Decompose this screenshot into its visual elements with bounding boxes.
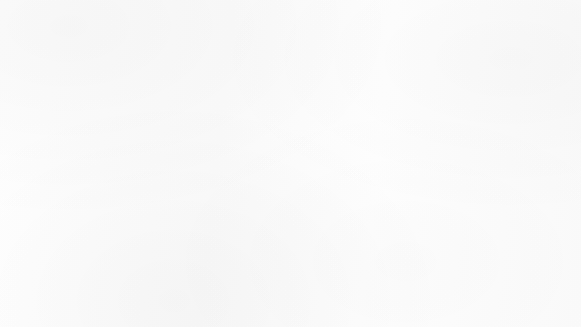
label-line-1: Partly <box>150 96 258 114</box>
label-line-2: countries <box>430 233 534 251</box>
label-line-3: countries <box>150 132 258 150</box>
label-line-2: countries <box>298 166 410 184</box>
label-value: 63 <box>62 245 184 263</box>
pie-2009-label-not-free: Not free countries 42 <box>430 215 534 269</box>
label-line-1: Not free <box>62 209 184 227</box>
chart-1974: 1974 Free countries 41 Partly free count… <box>0 0 290 327</box>
label-value: 48 <box>150 150 258 168</box>
label-value: 42 <box>430 251 534 269</box>
pie-1974-label-not-free: Not free countries 63 <box>62 209 184 263</box>
label-line-2: countries <box>32 122 136 140</box>
label-line-1: Partly <box>418 88 532 106</box>
pie-1974-label-partly-free: Partly free countries 48 <box>150 96 258 168</box>
label-line-1: Free <box>32 104 136 122</box>
label-value: 62 <box>418 142 532 160</box>
chart-2009: 2009 Free countries 89 Partly free count… <box>290 0 581 327</box>
pie-chart-figure: 1974 Free countries 41 Partly free count… <box>0 0 581 327</box>
label-line-3: countries <box>418 124 532 142</box>
pie-1974-label-free: Free countries 41 <box>32 104 136 158</box>
label-line-2: free <box>150 114 258 132</box>
label-line-1: Not free <box>430 215 534 233</box>
label-line-1: Free <box>298 148 410 166</box>
chart-2009-title: 2009 <box>282 13 573 33</box>
chart-1974-title: 1974 <box>0 13 290 33</box>
label-line-2: countries <box>62 227 184 245</box>
label-value: 89 <box>298 184 410 202</box>
pie-2009-label-free: Free countries 89 <box>298 148 410 202</box>
label-value: 41 <box>32 140 136 158</box>
label-line-2: free <box>418 106 532 124</box>
pie-2009-label-partly-free: Partly free countries 62 <box>418 88 532 160</box>
